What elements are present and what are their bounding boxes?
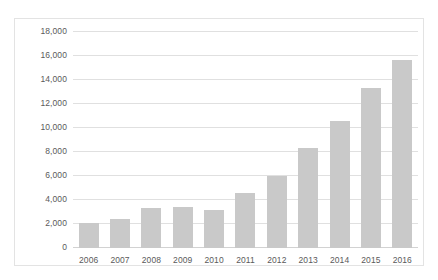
bar-group: 2007 [104, 32, 135, 248]
y-axis-tick-label: 6,000 [45, 170, 67, 180]
bar-group: 2014 [324, 32, 355, 248]
y-axis-tick-label: 10,000 [40, 122, 67, 132]
bar-group: 2015 [355, 32, 386, 248]
x-axis-tick-label: 2010 [204, 255, 223, 265]
bar[interactable] [298, 148, 318, 248]
y-axis-tick-label: 4,000 [45, 194, 67, 204]
bar-group: 2010 [198, 32, 229, 248]
y-axis-tick-label: 2,000 [45, 218, 67, 228]
bar-group: 2008 [136, 32, 167, 248]
bar-group: 2013 [293, 32, 324, 248]
y-axis-tick-label: 16,000 [40, 50, 67, 60]
y-axis-tick-label: 8,000 [45, 146, 67, 156]
x-axis-tick-label: 2007 [110, 255, 129, 265]
x-axis-tick-label: 2013 [299, 255, 318, 265]
y-axis-tick-label: 18,000 [40, 26, 67, 36]
y-axis-tick-label: 0 [62, 242, 67, 252]
bar-group: 2011 [230, 32, 261, 248]
bar[interactable] [361, 88, 381, 248]
bar[interactable] [267, 176, 287, 248]
x-axis-tick-label: 2014 [330, 255, 349, 265]
bar[interactable] [330, 121, 350, 248]
bar[interactable] [204, 210, 224, 248]
bars-layer: 2006200720082009201020112012201320142015… [73, 32, 418, 248]
bar[interactable] [110, 219, 130, 248]
y-axis-tick-label: 14,000 [40, 74, 67, 84]
bar[interactable] [173, 207, 193, 248]
bar[interactable] [235, 193, 255, 248]
bar[interactable] [392, 60, 412, 248]
x-axis-tick-label: 2016 [393, 255, 412, 265]
chart-frame: 02,0004,0006,0008,00010,00012,00014,0001… [14, 18, 424, 266]
x-axis-tick-label: 2009 [173, 255, 192, 265]
bar-group: 2009 [167, 32, 198, 248]
bar-group: 2006 [73, 32, 104, 248]
x-axis-tick-label: 2008 [142, 255, 161, 265]
x-axis-tick-label: 2012 [267, 255, 286, 265]
y-axis-tick-label: 12,000 [40, 98, 67, 108]
bar-group: 2016 [387, 32, 418, 248]
bar-group: 2012 [261, 32, 292, 248]
x-axis-tick-label: 2015 [361, 255, 380, 265]
x-axis-tick-label: 2011 [236, 255, 255, 265]
bar[interactable] [79, 223, 99, 248]
bar[interactable] [141, 208, 161, 248]
x-axis-tick-label: 2006 [79, 255, 98, 265]
plot-area: 02,0004,0006,0008,00010,00012,00014,0001… [73, 32, 418, 248]
